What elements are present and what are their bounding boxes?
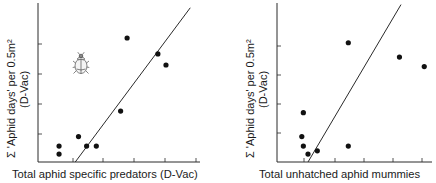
left-x-axis-label: Total aphid specific predators (D-Vac) xyxy=(12,168,198,180)
data-point xyxy=(346,144,351,149)
left-y-axis-label: Σ 'Aphid days' per 0.5m² (D-Vac) xyxy=(5,39,30,158)
data-point xyxy=(305,151,310,156)
data-point xyxy=(125,35,130,40)
right-x-ticks xyxy=(304,158,422,162)
data-point xyxy=(56,151,61,156)
left-data-points xyxy=(56,35,168,156)
chart-canvas: Total aphid specific predators (D-Vac) Σ… xyxy=(0,0,436,183)
data-point xyxy=(346,40,351,45)
data-point xyxy=(155,51,160,56)
data-point xyxy=(299,134,304,139)
right-scatter-plot: Total unhatched aphid mummies Σ 'Aphid d… xyxy=(244,3,432,180)
data-point xyxy=(301,144,306,149)
left-scatter-plot: Total aphid specific predators (D-Vac) Σ… xyxy=(5,3,200,180)
right-y-ticks xyxy=(277,46,281,133)
data-point xyxy=(301,110,306,115)
data-point xyxy=(397,54,402,59)
left-regression-line xyxy=(75,8,190,162)
data-point xyxy=(76,134,81,139)
right-y-axis-label-line2: (D-Vac) xyxy=(257,71,269,108)
left-y-axis-label-line2: (D-Vac) xyxy=(18,71,30,108)
left-y-axis-label-line1: Σ 'Aphid days' per 0.5m² xyxy=(5,39,17,158)
data-point xyxy=(315,148,320,153)
data-point xyxy=(163,62,168,67)
left-y-ticks xyxy=(38,44,42,134)
data-point xyxy=(118,109,123,114)
data-point xyxy=(84,144,89,149)
ladybird-beetle-icon xyxy=(73,52,90,73)
right-x-axis-label: Total unhatched aphid mummies xyxy=(259,168,420,180)
data-point xyxy=(56,144,61,149)
data-point xyxy=(94,144,99,149)
right-y-axis-label-line1: Σ 'Aphid days' per 0.5m² xyxy=(244,39,256,158)
right-y-axis-label: Σ 'Aphid days' per 0.5m² (D-Vac) xyxy=(244,39,269,158)
data-point xyxy=(422,64,427,69)
right-regression-line xyxy=(308,5,401,162)
right-data-points xyxy=(299,40,427,156)
left-x-ticks xyxy=(73,158,196,162)
